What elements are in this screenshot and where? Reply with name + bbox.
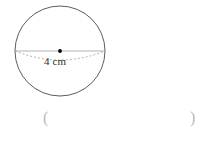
- center-point-dot: [58, 49, 62, 53]
- answer-blank-field[interactable]: [55, 112, 185, 128]
- answer-open-paren: (: [43, 110, 48, 126]
- diagram-canvas: 4 cm ( ): [0, 0, 203, 142]
- diameter-measurement-label: 4 cm: [44, 56, 66, 67]
- answer-close-paren: ): [190, 110, 195, 126]
